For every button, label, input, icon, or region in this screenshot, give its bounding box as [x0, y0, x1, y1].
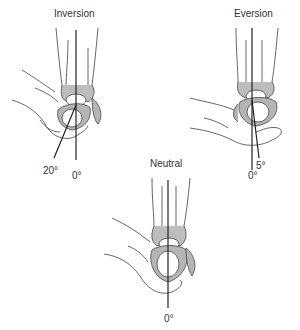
- neutral-title: Neutral: [150, 158, 182, 169]
- eversion-angle-0: 0°: [248, 170, 258, 181]
- neutral-angle-0: 0°: [164, 313, 174, 324]
- eversion-title: Eversion: [234, 8, 273, 19]
- eversion-foot-illustration: [190, 28, 281, 145]
- inversion-foot-illustration: [12, 28, 101, 138]
- inversion-angle-20: 20°: [43, 165, 58, 176]
- ankle-position-diagram: Inversion Eversion Neutral 20° 0° 5° 0° …: [0, 0, 300, 330]
- neutral-foot-illustration: [104, 178, 195, 293]
- inversion-angle-0: 0°: [72, 170, 82, 181]
- inversion-title: Inversion: [54, 8, 95, 19]
